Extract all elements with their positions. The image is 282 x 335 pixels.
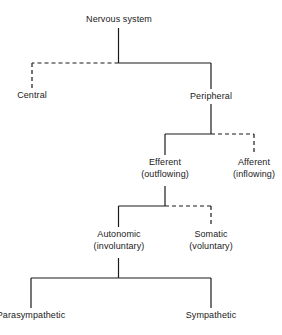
node-nervous-system-label: Nervous system <box>86 14 152 24</box>
node-efferent-sublabel: (outflowing) <box>141 169 189 181</box>
node-efferent-label: Efferent <box>149 157 181 167</box>
node-autonomic-sublabel: (involuntary) <box>94 241 145 253</box>
node-somatic: Somatic (voluntary) <box>189 229 233 252</box>
node-parasympathetic-label: Parasympathetic <box>0 310 65 320</box>
node-autonomic-label: Autonomic <box>97 229 140 239</box>
nervous-system-diagram: Nervous system Central Peripheral Effere… <box>0 0 282 335</box>
node-parasympathetic: Parasympathetic <box>0 310 65 322</box>
node-sympathetic: Sympathetic <box>186 310 237 322</box>
node-efferent: Efferent (outflowing) <box>141 157 189 180</box>
node-peripheral: Peripheral <box>190 91 232 103</box>
node-peripheral-label: Peripheral <box>190 91 232 101</box>
node-afferent-label: Afferent <box>238 157 270 167</box>
node-somatic-label: Somatic <box>194 229 227 239</box>
node-sympathetic-label: Sympathetic <box>186 310 237 320</box>
node-central: Central <box>17 90 47 102</box>
node-afferent-sublabel: (inflowing) <box>233 169 275 181</box>
node-nervous-system: Nervous system <box>86 14 152 26</box>
node-autonomic: Autonomic (involuntary) <box>94 229 145 252</box>
node-central-label: Central <box>17 90 47 100</box>
node-afferent: Afferent (inflowing) <box>233 157 275 180</box>
node-somatic-sublabel: (voluntary) <box>189 241 233 253</box>
